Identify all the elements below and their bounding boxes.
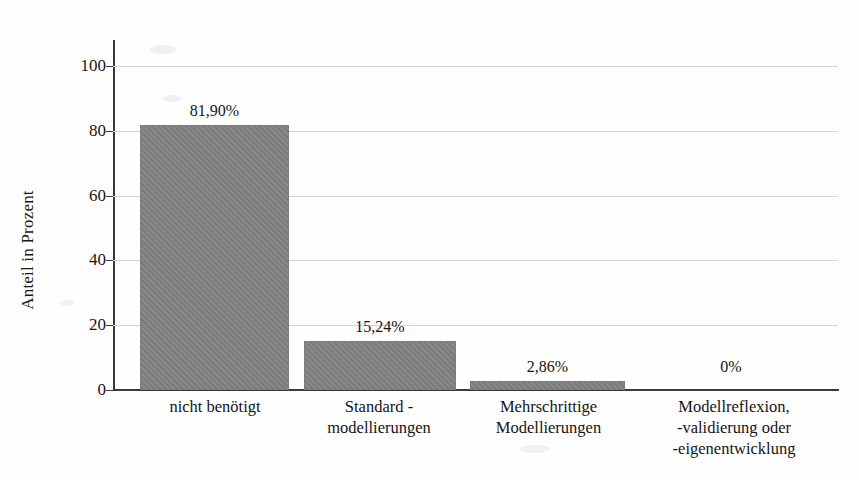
- x-category-label-2-line-1: Standard -: [300, 396, 458, 417]
- y-tick-label-60: 60: [54, 186, 106, 206]
- scan-artifact: [150, 45, 176, 54]
- bar-chart: Anteil in Prozent 100 80 60 40 20 0 81,9…: [0, 0, 859, 480]
- scan-artifact: [520, 445, 550, 453]
- y-axis-tick-labels: 100 80 60 40 20 0: [48, 66, 106, 390]
- x-category-label-4: Modellreflexion, -validierung oder -eige…: [634, 396, 834, 459]
- bar-value-label-1: 81,90%: [140, 102, 289, 120]
- y-tick-mark-100: [106, 66, 113, 67]
- x-category-label-2-line-2: modellierungen: [300, 417, 458, 438]
- y-axis-title: Anteil in Prozent: [18, 150, 38, 350]
- x-category-label-1: nicht benötigt: [140, 396, 290, 417]
- x-category-label-4-line-1: Modellreflexion,: [634, 396, 834, 417]
- y-tick-mark-40: [106, 260, 113, 261]
- y-tick-mark-80: [106, 131, 113, 132]
- x-category-label-2: Standard - modellierungen: [300, 396, 458, 438]
- x-category-label-3: Mehrschrittige Modellierungen: [466, 396, 631, 438]
- x-category-label-3-line-2: Modellierungen: [466, 417, 631, 438]
- y-tick-label-20: 20: [54, 315, 106, 335]
- x-category-label-1-line-1: nicht benötigt: [140, 396, 290, 417]
- bar-standardmodellierungen[interactable]: [304, 341, 456, 390]
- bar-value-label-2: 15,24%: [304, 318, 456, 336]
- x-category-label-4-line-3: -eigenentwicklung: [634, 438, 834, 459]
- y-tick-mark-20: [106, 325, 113, 326]
- gridline-100: [113, 66, 838, 67]
- y-tick-label-0: 0: [54, 380, 106, 400]
- bar-value-label-4: 0%: [641, 358, 821, 376]
- y-tick-label-100: 100: [54, 56, 106, 76]
- y-tick-mark-0: [106, 390, 113, 391]
- x-category-label-4-line-2: -validierung oder: [634, 417, 834, 438]
- y-tick-mark-60: [106, 196, 113, 197]
- bar-value-label-3: 2,86%: [470, 358, 625, 376]
- bar-mehrschrittige-modellierungen[interactable]: [470, 381, 625, 390]
- plot-area: 81,90% 15,24% 2,86% 0%: [113, 66, 838, 390]
- bar-nicht-benoetigt[interactable]: [140, 125, 289, 390]
- y-tick-label-40: 40: [54, 250, 106, 270]
- y-tick-label-80: 80: [54, 121, 106, 141]
- x-category-label-3-line-1: Mehrschrittige: [466, 396, 631, 417]
